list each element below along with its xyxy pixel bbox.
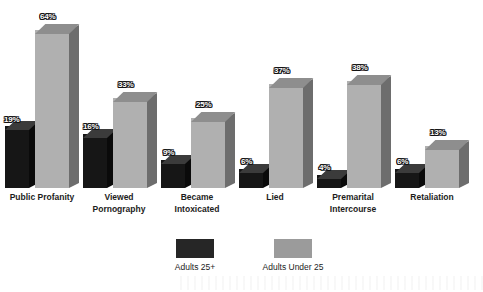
category-label: Retaliation bbox=[392, 192, 472, 204]
category-label: Lied bbox=[236, 192, 314, 204]
value-label: 19% bbox=[4, 115, 19, 124]
bar-light[interactable] bbox=[269, 84, 303, 188]
value-label: 33% bbox=[118, 80, 133, 89]
bar-dark[interactable] bbox=[5, 126, 29, 188]
bar-group: 19% 64% bbox=[2, 0, 80, 188]
legend-swatch-dark bbox=[176, 239, 214, 258]
bar-light[interactable] bbox=[425, 146, 459, 188]
category-label: Premarital Intercourse bbox=[314, 192, 392, 215]
bar-group: 4% 38% bbox=[314, 0, 392, 188]
bar-light[interactable] bbox=[113, 98, 147, 188]
category-label: Public Profanity bbox=[0, 192, 84, 204]
value-label: 13% bbox=[430, 128, 445, 137]
value-label: 37% bbox=[274, 66, 289, 75]
bar-group: 16% 33% bbox=[80, 0, 158, 188]
value-label: 6% bbox=[397, 157, 408, 166]
value-label: 4% bbox=[319, 163, 330, 172]
bar-dark[interactable] bbox=[161, 160, 185, 188]
bar-light[interactable] bbox=[35, 30, 69, 188]
chart-legend: Adults 25+ Adults Under 25 bbox=[0, 239, 483, 279]
bar-group: 6% 13% bbox=[392, 0, 470, 188]
legend-item-adults-under-25[interactable]: Adults Under 25 bbox=[245, 239, 341, 272]
bar-dark[interactable] bbox=[395, 169, 419, 188]
value-label: 38% bbox=[352, 63, 367, 72]
category-label: Became Intoxicated bbox=[158, 192, 236, 215]
plot-area: 19% 64% 16% 33% bbox=[0, 0, 483, 188]
bar-light[interactable] bbox=[191, 118, 225, 188]
value-label: 25% bbox=[196, 100, 211, 109]
bar-light[interactable] bbox=[347, 81, 381, 188]
legend-label: Adults 25+ bbox=[155, 262, 235, 272]
bar-dark[interactable] bbox=[239, 169, 263, 188]
bar-dark[interactable] bbox=[317, 175, 341, 188]
bar-group: 6% 37% bbox=[236, 0, 314, 188]
bar-dark[interactable] bbox=[83, 134, 107, 188]
value-label: 64% bbox=[40, 12, 55, 21]
value-label: 6% bbox=[241, 157, 252, 166]
scan-artifact-strip bbox=[180, 276, 483, 290]
value-label: 16% bbox=[83, 122, 98, 131]
bar-group: 9% 25% bbox=[158, 0, 236, 188]
value-label: 9% bbox=[163, 148, 174, 157]
legend-label: Adults Under 25 bbox=[245, 262, 341, 272]
category-label: Viewed Pornography bbox=[80, 192, 158, 215]
bar-chart: 19% 64% 16% 33% bbox=[0, 0, 483, 292]
legend-item-adults-25-plus[interactable]: Adults 25+ bbox=[155, 239, 235, 272]
legend-swatch-light bbox=[274, 239, 312, 258]
